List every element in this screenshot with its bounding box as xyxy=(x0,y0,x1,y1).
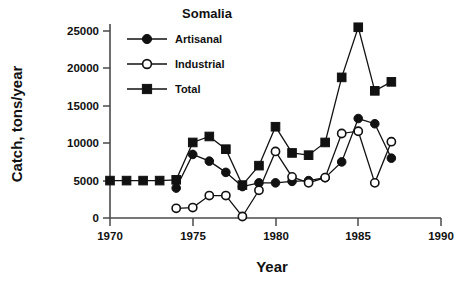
data-point-open-circle xyxy=(172,204,180,212)
y-tick-label: 5000 xyxy=(73,175,99,187)
data-point-open-circle xyxy=(189,203,197,211)
data-point-square xyxy=(222,145,231,154)
data-point-square xyxy=(139,176,148,185)
data-point-square xyxy=(238,181,247,190)
data-point-open-circle xyxy=(271,147,279,155)
y-tick-label: 0 xyxy=(93,212,99,224)
data-point-circle xyxy=(222,168,231,177)
data-point-square xyxy=(172,176,181,185)
data-point-circle xyxy=(188,150,197,159)
data-point-open-circle xyxy=(371,179,379,187)
data-point-open-circle xyxy=(255,186,263,194)
data-point-circle xyxy=(371,119,380,128)
data-point-open-circle xyxy=(354,127,362,135)
chart-title: Somalia xyxy=(182,6,233,21)
catch-line-chart: 25000 20000 15000 10000 5000 0 1970 1975… xyxy=(0,0,476,290)
data-point-square xyxy=(271,122,280,131)
data-point-open-circle xyxy=(238,212,246,220)
data-point-square xyxy=(387,78,396,87)
data-point-circle xyxy=(205,157,214,166)
data-point-open-circle xyxy=(205,191,213,199)
data-point-open-circle xyxy=(321,174,329,182)
x-tick-label: 1980 xyxy=(263,230,289,242)
data-point-square xyxy=(122,176,131,185)
data-point-open-circle xyxy=(305,179,313,187)
filled-circle-icon xyxy=(142,34,151,43)
legend-label: Artisanal xyxy=(175,33,222,45)
x-tick-label: 1975 xyxy=(180,230,206,242)
data-point-circle xyxy=(271,179,280,188)
data-point-circle xyxy=(387,154,396,163)
filled-square-icon xyxy=(142,84,151,93)
data-point-square xyxy=(255,161,264,170)
data-point-circle xyxy=(337,158,346,167)
data-point-square xyxy=(304,151,313,160)
data-point-square xyxy=(155,176,164,185)
x-tick-label: 1990 xyxy=(428,230,454,242)
open-circle-icon xyxy=(143,60,152,69)
data-point-square xyxy=(354,23,363,32)
data-point-open-circle xyxy=(222,191,230,199)
data-point-circle xyxy=(172,184,181,193)
y-tick-label: 10000 xyxy=(67,137,99,149)
data-point-square xyxy=(106,176,115,185)
data-point-square xyxy=(337,73,346,82)
legend-label: Total xyxy=(175,83,200,95)
data-point-open-circle xyxy=(338,129,346,137)
x-tick-label: 1985 xyxy=(345,230,371,242)
data-point-circle xyxy=(354,114,363,123)
data-point-open-circle xyxy=(288,173,296,181)
data-point-square xyxy=(188,138,197,147)
y-axis-title: Catch, tons/year xyxy=(8,65,25,182)
data-point-square xyxy=(321,138,330,147)
legend-label: Industrial xyxy=(175,58,225,70)
x-axis-title: Year xyxy=(256,258,288,275)
data-point-square xyxy=(288,149,297,158)
y-tick-label: 15000 xyxy=(67,100,99,112)
y-tick-label: 20000 xyxy=(67,62,99,74)
data-point-square xyxy=(371,87,380,96)
data-point-open-circle xyxy=(387,138,395,146)
y-tick-label: 25000 xyxy=(67,25,99,37)
x-tick-label: 1970 xyxy=(97,230,123,242)
data-point-square xyxy=(205,132,214,141)
